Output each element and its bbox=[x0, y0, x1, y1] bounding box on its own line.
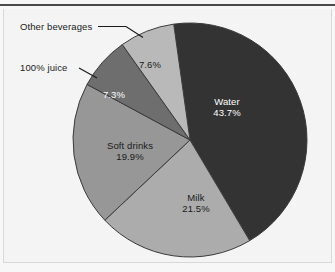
slice-label-milk: Milk 21.5% bbox=[165, 192, 227, 214]
callout-label-other-beverages: Other beverages bbox=[20, 21, 92, 32]
slice-label-milk-name: Milk bbox=[165, 192, 227, 203]
slice-label-water: Water 43.7% bbox=[196, 96, 258, 118]
slice-label-other-beverages-value-group: 7.6% bbox=[130, 59, 170, 70]
slice-label-water-value: 43.7% bbox=[196, 107, 258, 118]
pie-chart-figure: Water 43.7% Milk 21.5% Soft drinks 19.9%… bbox=[0, 0, 335, 272]
slice-label-juice-value: 7.3% bbox=[94, 89, 134, 100]
pie-graphic bbox=[0, 0, 335, 272]
slice-label-soft-drinks-name: Soft drinks bbox=[88, 140, 172, 151]
callout-label-juice: 100% juice bbox=[20, 62, 67, 73]
slice-label-soft-drinks-value: 19.9% bbox=[88, 151, 172, 162]
slice-label-other-beverages-value: 7.6% bbox=[130, 59, 170, 70]
slice-label-soft-drinks: Soft drinks 19.9% bbox=[88, 140, 172, 162]
slice-label-milk-value: 21.5% bbox=[165, 203, 227, 214]
slice-label-juice-value-group: 7.3% bbox=[94, 89, 134, 100]
slice-label-water-name: Water bbox=[196, 96, 258, 107]
